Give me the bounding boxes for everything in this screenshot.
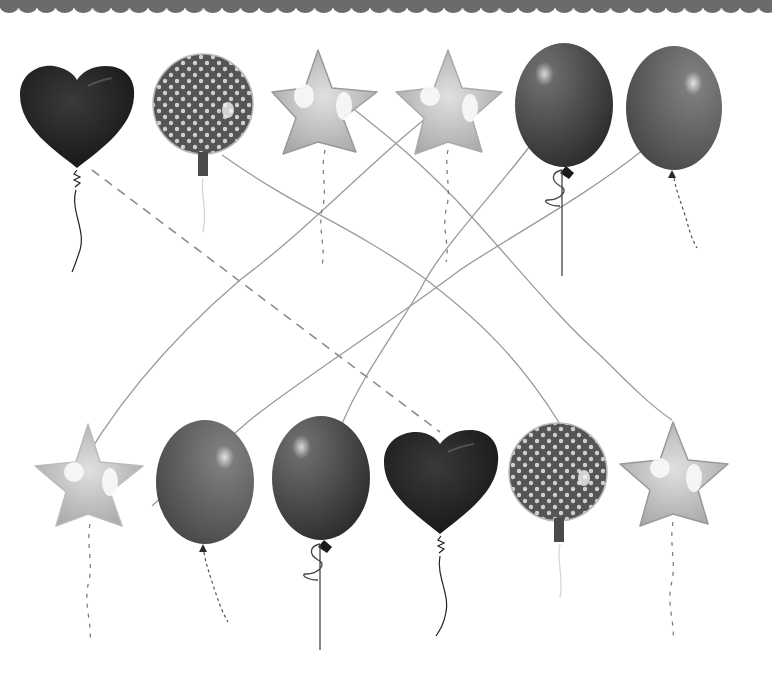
ribbon <box>202 178 204 232</box>
latex-balloon-icon <box>156 420 254 544</box>
balloon-heart-bottom[interactable] <box>384 430 498 636</box>
connection-polka-dot[interactable] <box>222 155 560 424</box>
ribbon-curl <box>436 536 447 636</box>
ribbon-curl <box>321 150 325 265</box>
balloon-latex-mid-top[interactable] <box>626 46 722 248</box>
balloon-heart-top[interactable] <box>20 66 134 272</box>
balloon-latex-mid-bottom[interactable] <box>156 420 254 622</box>
ribbon <box>559 544 561 598</box>
balloon-latex-dark-bottom[interactable] <box>272 416 370 650</box>
latex-balloon-icon <box>626 46 722 170</box>
latex-balloon-icon <box>272 416 370 540</box>
balloon-matching-canvas <box>0 0 772 682</box>
polka-dot-balloon-icon <box>153 54 253 154</box>
balloon-star-bottom-1[interactable] <box>35 424 143 640</box>
connection-heart-dashed[interactable] <box>92 170 440 432</box>
ribbon-curl <box>546 170 564 276</box>
ribbon-curl <box>204 552 228 622</box>
star-balloon-icon <box>620 422 728 526</box>
ribbon-curl <box>670 522 673 640</box>
balloon-polka-dot-bottom[interactable] <box>509 423 607 598</box>
heart-balloon-icon <box>384 430 498 534</box>
polka-dot-balloon-icon <box>509 423 607 521</box>
latex-balloon-icon <box>515 43 613 167</box>
balloon-latex-dark-top[interactable] <box>515 43 613 276</box>
ribbon-curl <box>674 178 697 248</box>
star-balloon-icon <box>35 424 143 526</box>
star-balloon-icon <box>396 50 502 154</box>
connection-star-right[interactable] <box>327 88 672 420</box>
balloon-star-bottom-2[interactable] <box>620 422 728 640</box>
ribbon-curl <box>445 150 448 262</box>
heart-balloon-icon <box>20 66 134 168</box>
ribbon-curl <box>87 524 90 640</box>
connection-latex-dark[interactable] <box>342 146 530 424</box>
ribbon-curl <box>304 544 322 650</box>
balloon-star-top-1[interactable] <box>272 50 377 265</box>
balloon-polka-dot-top[interactable] <box>153 54 253 232</box>
ribbon-curl <box>72 170 81 272</box>
balloon-star-top-2[interactable] <box>396 50 502 262</box>
star-balloon-icon <box>272 50 377 154</box>
